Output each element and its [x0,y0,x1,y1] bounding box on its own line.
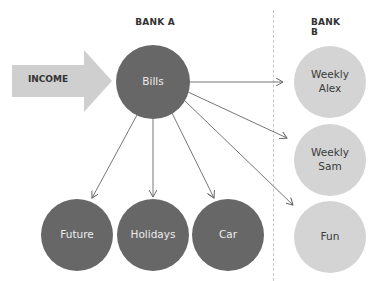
weekly-sam-node: Weekly Sam [294,124,366,196]
future-node: Future [41,199,113,271]
car-node: Car [192,199,264,271]
weekly-alex-node: Weekly Alex [294,46,366,118]
fun-node: Fun [294,201,366,273]
bills-node: Bills [116,45,190,119]
holidays-node: Holidays [117,199,189,271]
